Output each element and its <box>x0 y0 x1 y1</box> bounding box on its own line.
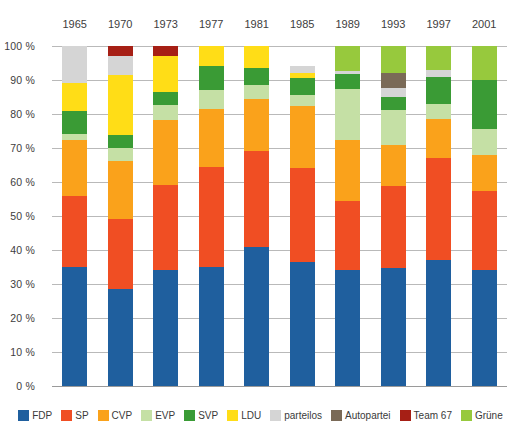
segment-1993-evp[interactable] <box>381 110 406 145</box>
legend-item-team-67[interactable]: Team 67 <box>400 410 452 421</box>
segment-2001-fdp[interactable] <box>472 270 497 386</box>
segment-1989-fdp[interactable] <box>335 270 360 386</box>
legend-item-autopartei[interactable]: Autopartei <box>331 410 391 421</box>
legend-label: LDU <box>241 410 261 421</box>
x-tick-label-1970: 1970 <box>98 18 144 30</box>
segment-1977-sp[interactable] <box>199 167 224 267</box>
legend-item-parteilos[interactable]: parteilos <box>270 410 322 421</box>
segment-1970-team-67[interactable] <box>108 46 133 56</box>
segment-2001-cvp[interactable] <box>472 155 497 191</box>
segment-1997-grüne[interactable] <box>426 46 451 70</box>
segment-1981-ldu[interactable] <box>244 46 269 68</box>
segment-1997-sp[interactable] <box>426 158 451 260</box>
segment-1981-svp[interactable] <box>244 68 269 85</box>
segment-1997-svp[interactable] <box>426 77 451 104</box>
bar-2001[interactable] <box>472 46 497 386</box>
y-tick-label-50: 50 % <box>0 210 35 222</box>
legend-item-evp[interactable]: EVP <box>141 410 175 421</box>
segment-1981-sp[interactable] <box>244 151 269 246</box>
legend-item-ldu[interactable]: LDU <box>227 410 261 421</box>
segment-1985-svp[interactable] <box>290 78 315 95</box>
segment-1985-fdp[interactable] <box>290 262 315 386</box>
segment-1993-svp[interactable] <box>381 97 406 110</box>
segment-1993-grüne[interactable] <box>381 46 406 73</box>
segment-1970-fdp[interactable] <box>108 289 133 386</box>
segment-1993-autopartei[interactable] <box>381 73 406 88</box>
bar-1985[interactable] <box>290 46 315 386</box>
segment-1985-parteilos[interactable] <box>290 66 315 73</box>
legend-swatch-icon <box>270 410 281 421</box>
bar-1970[interactable] <box>108 46 133 386</box>
segment-1989-evp[interactable] <box>335 89 360 140</box>
segment-1973-fdp[interactable] <box>153 270 178 386</box>
bar-1989[interactable] <box>335 46 360 386</box>
segment-2001-grüne[interactable] <box>472 46 497 80</box>
segment-1977-evp[interactable] <box>199 90 224 109</box>
segment-1970-ldu[interactable] <box>108 75 133 135</box>
segment-2001-evp[interactable] <box>472 129 497 155</box>
segment-1981-evp[interactable] <box>244 85 269 99</box>
segment-1965-svp[interactable] <box>62 111 87 135</box>
segment-1993-parteilos[interactable] <box>381 88 406 96</box>
segment-1965-sp[interactable] <box>62 196 87 267</box>
segment-1993-cvp[interactable] <box>381 145 406 185</box>
segment-1985-evp[interactable] <box>290 95 315 105</box>
bar-1997[interactable] <box>426 46 451 386</box>
segment-1973-svp[interactable] <box>153 92 178 105</box>
segment-1997-fdp[interactable] <box>426 260 451 386</box>
segment-1970-parteilos[interactable] <box>108 56 133 75</box>
legend-label: SVP <box>198 410 218 421</box>
segment-1985-cvp[interactable] <box>290 106 315 169</box>
segment-1965-fdp[interactable] <box>62 267 87 386</box>
segment-1997-cvp[interactable] <box>426 119 451 158</box>
segment-1989-sp[interactable] <box>335 201 360 270</box>
segment-1973-cvp[interactable] <box>153 120 178 184</box>
segment-1973-evp[interactable] <box>153 105 178 120</box>
segment-2001-svp[interactable] <box>472 80 497 129</box>
x-tick-label-1973: 1973 <box>143 18 189 30</box>
legend-item-svp[interactable]: SVP <box>184 410 218 421</box>
legend-label: Autopartei <box>345 410 391 421</box>
legend-label: FDP <box>32 410 52 421</box>
y-tick-label-80: 80 % <box>0 108 35 120</box>
segment-1973-team-67[interactable] <box>153 46 178 56</box>
segment-1970-svp[interactable] <box>108 135 133 148</box>
segment-1977-fdp[interactable] <box>199 267 224 386</box>
legend-label: CVP <box>112 410 133 421</box>
segment-1989-grüne[interactable] <box>335 46 360 71</box>
segment-1970-evp[interactable] <box>108 148 133 161</box>
bar-1965[interactable] <box>62 46 87 386</box>
bar-1977[interactable] <box>199 46 224 386</box>
segment-1977-ldu[interactable] <box>199 46 224 66</box>
segment-1965-parteilos[interactable] <box>62 46 87 83</box>
legend-item-cvp[interactable]: CVP <box>98 410 133 421</box>
legend-item-sp[interactable]: SP <box>61 410 88 421</box>
y-tick-label-40: 40 % <box>0 244 35 256</box>
legend-item-grüne[interactable]: Grüne <box>461 410 503 421</box>
segment-1981-cvp[interactable] <box>244 99 269 152</box>
segment-1973-sp[interactable] <box>153 185 178 271</box>
segment-1993-fdp[interactable] <box>381 268 406 386</box>
bar-1981[interactable] <box>244 46 269 386</box>
segment-1965-ldu[interactable] <box>62 83 87 110</box>
segment-1977-cvp[interactable] <box>199 109 224 167</box>
segment-1965-cvp[interactable] <box>62 140 87 196</box>
segment-2001-sp[interactable] <box>472 191 497 271</box>
segment-1970-cvp[interactable] <box>108 161 133 219</box>
segment-1989-cvp[interactable] <box>335 140 360 201</box>
segment-1985-sp[interactable] <box>290 168 315 262</box>
segment-1977-svp[interactable] <box>199 66 224 90</box>
segment-1970-sp[interactable] <box>108 219 133 289</box>
bar-1993[interactable] <box>381 46 406 386</box>
legend-swatch-icon <box>98 410 109 421</box>
segment-1981-fdp[interactable] <box>244 247 269 386</box>
segment-1997-evp[interactable] <box>426 104 451 119</box>
segment-1997-parteilos[interactable] <box>426 70 451 77</box>
segment-1973-ldu[interactable] <box>153 56 178 92</box>
legend-swatch-icon <box>461 410 472 421</box>
legend-item-fdp[interactable]: FDP <box>18 410 52 421</box>
segment-1989-svp[interactable] <box>335 74 360 89</box>
x-tick-label-1993: 1993 <box>371 18 417 30</box>
bar-1973[interactable] <box>153 46 178 386</box>
segment-1993-sp[interactable] <box>381 186 406 268</box>
